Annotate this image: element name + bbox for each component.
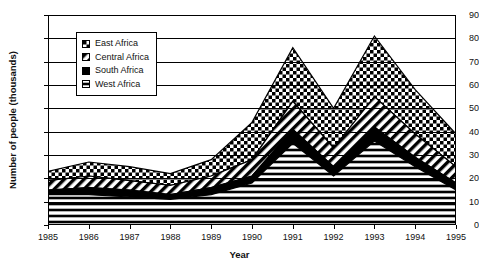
legend-swatch-checkerboard bbox=[82, 40, 90, 48]
y-axis-tick bbox=[44, 132, 48, 133]
gridline bbox=[48, 15, 456, 16]
x-axis-tick bbox=[293, 225, 294, 229]
x-axis-tick bbox=[211, 225, 212, 229]
y-axis-tick bbox=[44, 38, 48, 39]
x-axis-tick-label: 1993 bbox=[364, 233, 384, 242]
legend: East AfricaCentral AfricaSouth AfricaWes… bbox=[76, 32, 157, 96]
x-axis-tick-label: 1985 bbox=[38, 233, 58, 242]
y-axis-tick bbox=[44, 108, 48, 109]
x-axis-tick bbox=[170, 225, 171, 229]
x-axis-tick-label: 1992 bbox=[324, 233, 344, 242]
legend-item[interactable]: East Africa bbox=[82, 37, 149, 51]
x-axis-tick-label: 1988 bbox=[160, 233, 180, 242]
legend-swatch-solid-black bbox=[82, 67, 90, 75]
legend-label: East Africa bbox=[95, 39, 138, 48]
x-axis-title: Year bbox=[0, 249, 479, 260]
legend-label: South Africa bbox=[95, 66, 144, 75]
gridline bbox=[48, 108, 456, 109]
x-axis-tick-label: 1991 bbox=[283, 233, 303, 242]
y-axis-tick bbox=[44, 202, 48, 203]
x-axis-tick bbox=[89, 225, 90, 229]
x-axis-tick-label: 1989 bbox=[201, 233, 221, 242]
y-axis-tick bbox=[44, 62, 48, 63]
y-axis-tick bbox=[44, 85, 48, 86]
legend-item[interactable]: West Africa bbox=[82, 78, 149, 92]
x-axis-tick-label: 1995 bbox=[446, 233, 466, 242]
gridline bbox=[48, 202, 456, 203]
x-axis-tick bbox=[334, 225, 335, 229]
x-axis-tick bbox=[415, 225, 416, 229]
legend-swatch-horizontal-lines bbox=[82, 80, 90, 88]
legend-swatch-diagonal-hatch bbox=[82, 53, 90, 61]
x-axis-tick bbox=[130, 225, 131, 229]
x-axis-tick-label: 1994 bbox=[405, 233, 425, 242]
x-axis-tick bbox=[374, 225, 375, 229]
gridline bbox=[48, 155, 456, 156]
y-axis-title: Number of people (thousands) bbox=[7, 51, 18, 189]
y-axis-tick bbox=[44, 155, 48, 156]
x-axis-tick bbox=[48, 225, 49, 229]
legend-item[interactable]: Central Africa bbox=[82, 51, 149, 65]
x-axis-tick bbox=[456, 225, 457, 229]
x-axis-tick-label: 1986 bbox=[79, 233, 99, 242]
stacked-area-chart: Number of people (thousands) 01020304050… bbox=[0, 0, 479, 263]
gridline bbox=[48, 132, 456, 133]
legend-item[interactable]: South Africa bbox=[82, 64, 149, 78]
x-axis-tick-label: 1987 bbox=[120, 233, 140, 242]
y-axis-tick bbox=[44, 15, 48, 16]
legend-label: Central Africa bbox=[95, 53, 149, 62]
x-axis-tick bbox=[252, 225, 253, 229]
y-axis-tick bbox=[44, 178, 48, 179]
legend-label: West Africa bbox=[95, 80, 140, 89]
gridline bbox=[48, 178, 456, 179]
x-axis-tick-label: 1990 bbox=[242, 233, 262, 242]
